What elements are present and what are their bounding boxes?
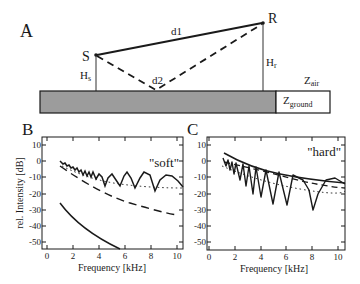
source-point — [94, 53, 98, 57]
panel-a-label: A — [20, 21, 33, 41]
panel-b-x-axis-label: Frequency [kHz] — [78, 262, 146, 273]
receiver-label: R — [268, 11, 278, 26]
panel-c-x-axis-label: Frequency [kHz] — [240, 263, 308, 274]
svg-text:4: 4 — [259, 252, 264, 262]
svg-text:-40: -40 — [29, 221, 41, 231]
figure: A S R d1 d2 Hs Hr Zair Zground B — [0, 0, 360, 284]
svg-text:0: 0 — [37, 156, 42, 166]
d1-label: d1 — [171, 25, 182, 37]
panel-b-x-ticks — [47, 137, 177, 249]
svg-text:6: 6 — [284, 252, 289, 262]
panel-b-y-axis-label: rel. Intensity [dB] — [14, 157, 25, 228]
svg-text:4: 4 — [97, 251, 102, 261]
svg-text:-50: -50 — [194, 237, 206, 247]
d2-label: d2 — [152, 74, 163, 86]
svg-text:0: 0 — [45, 251, 50, 261]
svg-text:-30: -30 — [29, 205, 41, 215]
svg-text:-30: -30 — [194, 205, 206, 215]
panel-b-y-tick-labels: 100-10 -20-30-40-50 — [29, 140, 42, 247]
source-height-label: Hs — [80, 69, 91, 83]
svg-text:-20: -20 — [29, 189, 41, 199]
svg-text:6: 6 — [123, 251, 128, 261]
panel-b-x-tick-labels: 024 6810 — [45, 251, 182, 261]
air-impedance-label: Zair — [304, 74, 320, 88]
svg-text:0: 0 — [202, 156, 207, 166]
svg-text:10: 10 — [334, 252, 344, 262]
svg-text:10: 10 — [197, 140, 207, 150]
panel-b-chart: B 100-10 -20-30-40-50 024 6810 — [14, 120, 183, 273]
svg-text:-10: -10 — [194, 172, 206, 182]
svg-text:2: 2 — [71, 251, 76, 261]
svg-text:-50: -50 — [29, 237, 41, 247]
panel-a: A S R d1 d2 Hs Hr Zair Zground — [20, 11, 330, 113]
panel-c-x-tick-labels: 024 6810 — [207, 252, 343, 262]
svg-text:-10: -10 — [29, 172, 41, 182]
panel-c-total-curve — [223, 158, 345, 210]
panel-c-title: "hard" — [307, 144, 341, 159]
panel-b-label: B — [22, 120, 33, 139]
panel-c-y-tick-labels: 100-10 -20-30-40-50 — [194, 140, 207, 247]
svg-text:10: 10 — [32, 140, 42, 150]
svg-text:2: 2 — [233, 252, 238, 262]
svg-text:0: 0 — [207, 252, 212, 262]
receiver-point — [261, 21, 265, 25]
svg-text:8: 8 — [149, 251, 154, 261]
svg-text:-20: -20 — [194, 189, 206, 199]
source-label: S — [82, 49, 90, 64]
ground-surface — [40, 91, 276, 113]
panel-b-dashed-curve — [60, 166, 177, 215]
panel-b-frame — [42, 137, 183, 249]
panel-c-chart: C 100-10 -20-30-40-50 024 6810 — [187, 120, 345, 274]
panel-c-label: C — [187, 120, 198, 139]
svg-text:8: 8 — [310, 252, 315, 262]
panel-b-title: "soft" — [149, 155, 179, 170]
receiver-height-label: Hr — [266, 56, 277, 70]
panel-b-lower-curve — [60, 203, 120, 249]
svg-text:-40: -40 — [194, 221, 206, 231]
svg-text:10: 10 — [173, 251, 183, 261]
